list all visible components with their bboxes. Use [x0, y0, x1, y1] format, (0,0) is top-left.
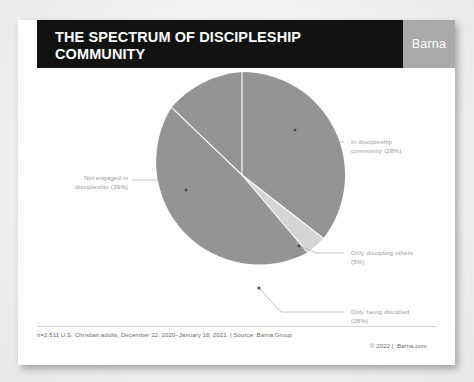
brand-name: Barna: [412, 37, 446, 51]
footer-copyright: © 2022 | Barna.com: [370, 342, 427, 349]
card-header: THE SPECTRUM OF DISCIPLESHIP COMMUNITY B…: [37, 20, 455, 68]
callout-label-being-discipled: Only being discipled (28%): [351, 308, 447, 326]
callout-label-discipling-others: Only discipling others (5%): [351, 249, 447, 267]
footer-divider: [37, 326, 437, 327]
chart-area: In discipleship community (28%) Not enga…: [18, 68, 455, 318]
infographic-card: THE SPECTRUM OF DISCIPLESHIP COMMUNITY B…: [18, 20, 455, 365]
callout-leader-lines: [18, 68, 455, 318]
callout-label-in-community: In discipleship community (28%): [351, 138, 447, 156]
callout-label-not-engaged: Not engaged in discipleship (39%): [32, 174, 128, 192]
footer-source-note: n=2,511 U.S. Christian adults, December …: [37, 331, 292, 339]
page-title: THE SPECTRUM OF DISCIPLESHIP COMMUNITY: [37, 20, 403, 68]
brand-block: Barna: [403, 20, 455, 68]
card-footer: n=2,511 U.S. Christian adults, December …: [37, 331, 439, 339]
